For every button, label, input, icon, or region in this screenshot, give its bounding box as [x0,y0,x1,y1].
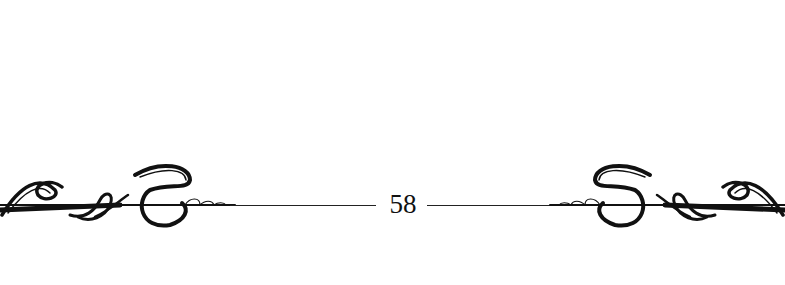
rule-left [230,205,376,206]
page-footer: 58 [0,0,785,285]
page-number: 58 [380,188,426,220]
flourish-left-icon [0,155,240,245]
flourish-right-icon [545,155,785,245]
